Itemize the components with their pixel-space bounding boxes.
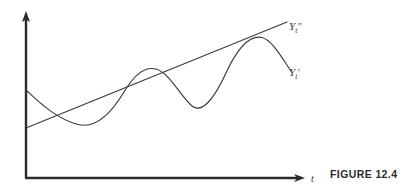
- y-axis: [22, 11, 30, 178]
- series-label-trend-prime: ″: [297, 21, 302, 32]
- series-label-cycle: Yt′: [289, 66, 300, 81]
- figure-container: Yt″ Yt′ t FIGURE 12.4: [0, 0, 415, 193]
- series-label-trend: Yt″: [289, 20, 302, 35]
- figure-caption: FIGURE 12.4: [330, 168, 397, 180]
- series-label-cycle-prime: ′: [297, 67, 300, 78]
- trend-line-series: [26, 22, 287, 128]
- x-axis-label: t: [311, 173, 314, 184]
- plot-area: Yt″ Yt′ t: [0, 0, 415, 193]
- x-axis: [25, 174, 305, 182]
